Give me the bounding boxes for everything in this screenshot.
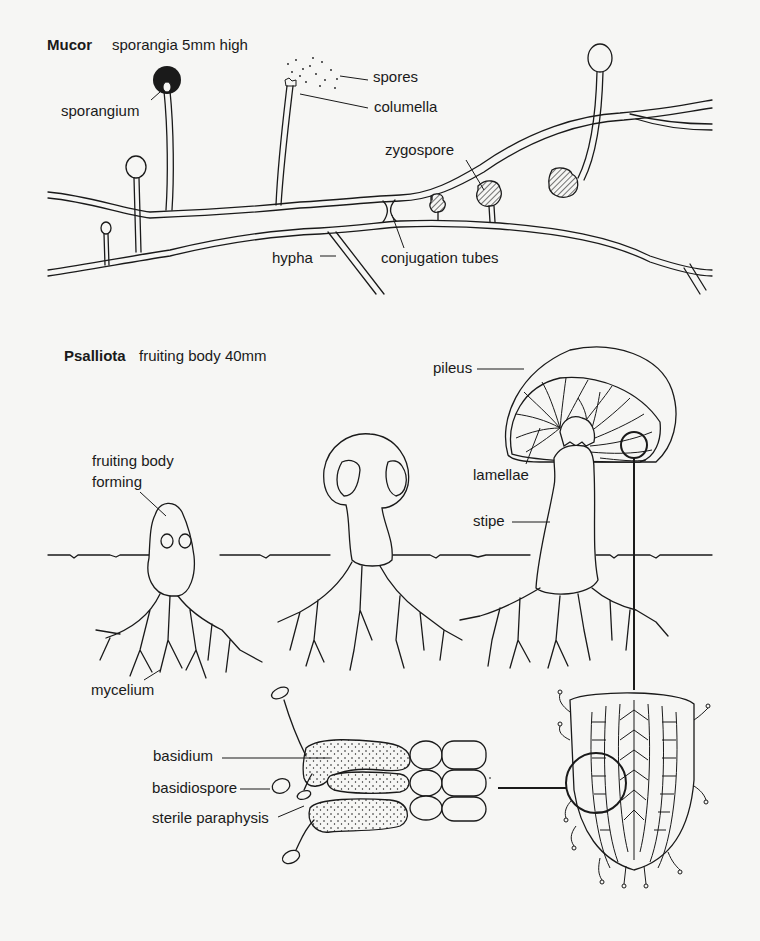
label-pileus: pileus: [433, 359, 472, 376]
mature-zygospore: [549, 168, 578, 197]
label-basidiospore: basidiospore: [152, 779, 237, 796]
young-mushroom: [324, 434, 409, 566]
mucor-caption: sporangia 5mm high: [112, 36, 248, 53]
mucor-title: Mucor: [47, 36, 92, 53]
hymenium-detail: [270, 685, 491, 867]
paraphysis-cell: [309, 799, 407, 832]
label-conjugation-tubes: conjugation tubes: [381, 249, 499, 266]
psalliota-title: Psalliota: [64, 347, 126, 364]
label-sterile-paraphysis: sterile paraphysis: [152, 809, 269, 826]
spores: [287, 57, 338, 89]
label-mycelium: mycelium: [91, 681, 154, 698]
label-basidium: basidium: [153, 747, 213, 764]
label-fruiting-body-forming-1: fruiting body: [92, 452, 174, 469]
mature-mushroom: [506, 347, 676, 690]
stipe-stalk: [536, 445, 598, 594]
fungi-diagram: Mucor sporangia 5mm high: [0, 0, 760, 941]
conjugation-structures: [383, 168, 578, 222]
label-stipe: stipe: [473, 512, 505, 529]
label-zygospore: zygospore: [385, 141, 454, 158]
label-columella: columella: [374, 98, 438, 115]
mucor-section: Mucor sporangia 5mm high: [47, 36, 712, 294]
label-fruiting-body-forming-2: forming: [92, 473, 142, 490]
label-spores: spores: [373, 68, 418, 85]
psalliota-caption: fruiting body 40mm: [139, 347, 267, 364]
lower-hypha: [48, 220, 712, 294]
gill-section-magnified: [498, 690, 710, 888]
fruiting-body-forming: [148, 503, 194, 596]
psalliota-section: Psalliota fruiting body 40mm: [48, 347, 712, 888]
label-hypha: hypha: [272, 249, 314, 266]
upper-hypha: [48, 100, 712, 218]
label-sporangium: sporangium: [61, 102, 139, 119]
label-lamellae: lamellae: [473, 466, 529, 483]
